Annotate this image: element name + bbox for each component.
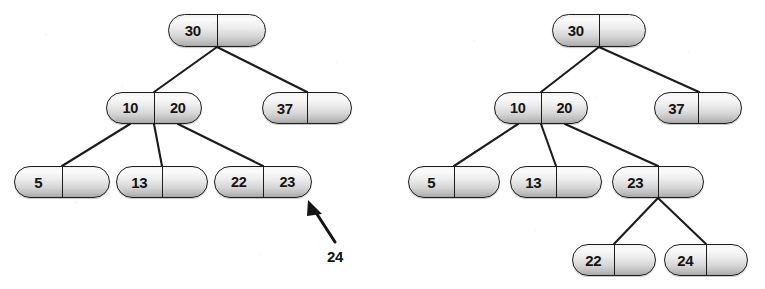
tree-node-empty-cell	[658, 167, 704, 197]
tree-node-empty-cell	[307, 93, 352, 123]
tree-node-r-n1020: 1020	[494, 92, 588, 124]
tree-node-r-root: 30	[552, 14, 646, 47]
tree-node-key-cell: 30	[169, 15, 217, 46]
tree-edge	[541, 47, 599, 92]
tree-node-r-n5: 5	[408, 166, 500, 198]
tree-node-key-cell: 37	[655, 93, 698, 123]
tree-node-empty-cell	[614, 245, 656, 275]
inserted-key-label: 24	[327, 248, 343, 265]
tree-node-empty-cell	[698, 93, 742, 123]
tree-node-l-n13: 13	[116, 166, 208, 198]
tree-edge	[599, 47, 699, 92]
tree-node-key-cell: 20	[154, 93, 202, 123]
tree-node-key-cell: 20	[541, 93, 588, 123]
tree-node-empty-cell	[556, 167, 602, 197]
tree-node-key-cell: 22	[573, 245, 614, 275]
tree-node-key-cell: 13	[511, 167, 556, 197]
tree-node-r-n22: 22	[572, 244, 656, 276]
tree-node-key-cell: 13	[117, 167, 162, 197]
tree-node-l-n1020: 1020	[106, 92, 202, 124]
tree-node-key-cell: 22	[215, 167, 263, 197]
arrow-up-left-icon	[307, 200, 335, 242]
tree-node-r-n13: 13	[510, 166, 602, 198]
tree-node-key-cell: 30	[553, 15, 599, 46]
tree-node-empty-cell	[162, 167, 208, 197]
tree-node-r-n24: 24	[664, 244, 748, 276]
tree-node-key-cell: 23	[263, 167, 312, 197]
tree-edge	[154, 47, 217, 92]
tree-edge	[62, 124, 130, 166]
tree-diagram-figure: 30102037513222330102037513232224 24	[0, 0, 765, 289]
tree-edge	[154, 124, 162, 166]
tree-node-empty-cell	[62, 167, 110, 197]
tree-node-key-cell: 5	[15, 167, 62, 197]
tree-node-l-root: 30	[168, 14, 266, 47]
tree-node-key-cell: 37	[263, 93, 307, 123]
tree-node-key-cell: 23	[613, 167, 658, 197]
tree-edge	[454, 124, 518, 166]
tree-node-empty-cell	[217, 15, 266, 46]
tree-edge	[614, 198, 658, 244]
tree-node-empty-cell	[454, 167, 500, 197]
tree-node-empty-cell	[599, 15, 646, 46]
tree-edge	[565, 124, 658, 166]
tree-node-l-n5: 5	[14, 166, 110, 198]
tree-node-l-n37: 37	[262, 92, 352, 124]
tree-node-key-cell: 10	[495, 93, 541, 123]
tree-edge	[658, 198, 706, 244]
tree-edge	[178, 124, 263, 166]
tree-node-empty-cell	[706, 245, 748, 275]
tree-node-r-n23: 23	[612, 166, 704, 198]
tree-edge	[541, 124, 556, 166]
tree-node-r-n37: 37	[654, 92, 742, 124]
tree-node-key-cell: 24	[665, 245, 706, 275]
tree-node-key-cell: 10	[107, 93, 154, 123]
tree-node-key-cell: 5	[409, 167, 454, 197]
tree-edge	[217, 47, 307, 92]
tree-node-l-n2223: 2223	[214, 166, 312, 198]
